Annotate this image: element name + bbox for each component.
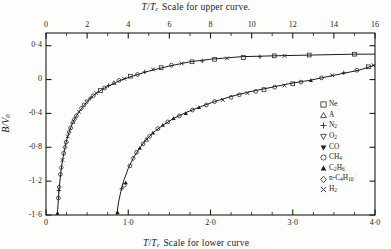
legend-item-nC4H10: n-C4H10 <box>318 174 354 185</box>
legend-label: A <box>329 110 334 121</box>
left-tick-0: 0·4 <box>31 40 42 49</box>
left-tick-4: -1·2 <box>29 176 42 185</box>
top-tick-8: 16 <box>371 20 379 29</box>
bottom-tick-3: 3·0 <box>287 218 298 227</box>
legend-item-N2: N2 <box>318 120 354 131</box>
data-point-filled-triangle-up <box>115 210 119 214</box>
legend-item-O2: O2 <box>318 131 354 142</box>
top-axis-ticks <box>46 33 375 39</box>
legend-item-H2: H2 <box>318 185 354 196</box>
data-point-plus <box>143 70 147 74</box>
bottom-tick-0: 0 <box>44 218 48 227</box>
data-point-cross <box>77 110 81 114</box>
data-point-plus <box>321 123 327 129</box>
data-point-plus <box>258 55 262 59</box>
legend-item-CO: CO <box>318 142 354 153</box>
filled-triangle-down-icon <box>318 143 329 152</box>
legend-item-Ne: Ne <box>318 99 354 110</box>
top-tick-3: 6 <box>167 20 171 29</box>
bottom-tick-4: 4·0 <box>370 218 381 227</box>
top-tick-7: 14 <box>330 20 338 29</box>
bottom-tick-2: 2·0 <box>205 218 216 227</box>
data-point-plus <box>342 71 346 75</box>
top-tick-5: 10 <box>248 20 256 29</box>
legend-label: Ne <box>329 99 338 110</box>
data-point-plus <box>200 59 204 63</box>
data-point-open-circle <box>321 155 326 160</box>
top-tick-4: 8 <box>209 20 213 29</box>
left-tick-2: -0·4 <box>29 108 42 117</box>
data-point-filled-triangle-up <box>161 123 165 127</box>
data-point-filled-triangle-down <box>321 145 327 150</box>
data-point-cross <box>94 91 98 95</box>
data-point-open-square <box>321 102 326 107</box>
legend: NeAN2O2COCH4C2H6n-C4H10H2 <box>318 99 354 195</box>
legend-item-CH4: CH4 <box>318 152 354 163</box>
legend-label: H2 <box>329 184 337 196</box>
filled-triangle-up-icon <box>318 164 329 173</box>
data-point-open-diamond <box>321 176 327 183</box>
legend-label: CO <box>329 142 339 153</box>
data-point-cross <box>321 187 326 192</box>
open-square-icon <box>318 100 329 109</box>
open-triangle-up-icon <box>318 111 329 120</box>
top-tick-1: 2 <box>85 20 89 29</box>
data-point-filled-triangle-up <box>124 181 128 185</box>
data-point-filled-triangle-up <box>55 211 59 215</box>
left-axis-ticks <box>46 46 52 215</box>
bottom-tick-1: 1·0 <box>123 218 134 227</box>
right-axis-ticks <box>370 46 376 215</box>
data-point-filled-triangle-up <box>321 165 327 170</box>
top-tick-2: 4 <box>126 20 130 29</box>
top-tick-6: 12 <box>289 20 297 29</box>
open-diamond-icon <box>318 175 329 184</box>
figure-root: T/Tc Scale for upper curve. T/Tc Scale f… <box>0 0 391 249</box>
plus-icon <box>318 121 329 130</box>
top-tick-0: 0 <box>44 20 48 29</box>
open-circle-icon <box>318 153 329 162</box>
left-tick-5: -1·6 <box>29 210 42 219</box>
left-tick-1: 0 <box>38 74 42 83</box>
data-point-open-triangle-up <box>321 112 327 117</box>
legend-item-C2H6: C2H6 <box>318 163 354 174</box>
bottom-axis-ticks <box>46 210 375 216</box>
legend-label: O2 <box>329 131 337 143</box>
data-point-open-triangle-down <box>321 134 327 139</box>
open-triangle-down-icon <box>318 132 329 141</box>
legend-item-A: A <box>318 110 354 121</box>
cross-icon <box>318 185 329 194</box>
left-tick-3: -0·8 <box>29 142 42 151</box>
